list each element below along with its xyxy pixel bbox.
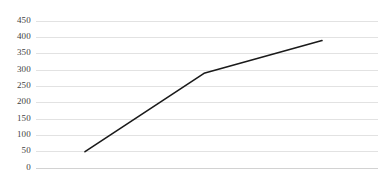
ytick-label-0: 0 — [1, 163, 31, 172]
ytick-label-350: 350 — [1, 48, 31, 57]
ytick-label-100: 100 — [1, 130, 31, 139]
plot-area: 450 400 350 300 250 200 150 100 — [36, 21, 378, 168]
ytick-label-300: 300 — [1, 65, 31, 74]
ytick-label-50: 50 — [1, 146, 31, 155]
ytick-label-400: 400 — [1, 32, 31, 41]
series-line-group — [36, 21, 378, 168]
ytick-label-200: 200 — [1, 97, 31, 106]
line-chart: 450 400 350 300 250 200 150 100 — [0, 0, 383, 192]
ytick-label-150: 150 — [1, 114, 31, 123]
ytick-label-450: 450 — [1, 16, 31, 25]
series-line — [85, 40, 322, 151]
x-axis-line — [36, 168, 378, 169]
ytick-label-250: 250 — [1, 81, 31, 90]
